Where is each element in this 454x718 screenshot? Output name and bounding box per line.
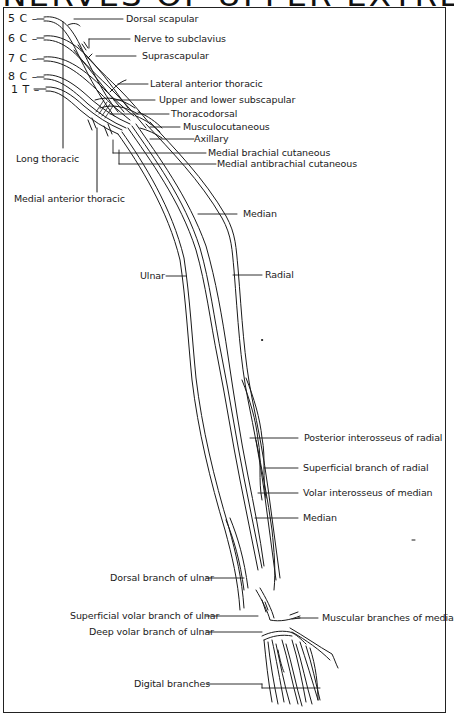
label-volar-interosseus-median: Volar interosseus of median (303, 488, 433, 498)
label-lateral-anterior-thoracic: Lateral anterior thoracic (150, 79, 263, 89)
root-label-c6: 6 C – (8, 33, 38, 44)
root-label-c5: 5 C – (8, 13, 38, 24)
arm-nerves (118, 122, 280, 610)
root-label-c7: 7 C – (8, 53, 38, 64)
label-musculocutaneous: Musculocutaneous (183, 122, 270, 132)
label-ulnar: Ulnar (140, 271, 165, 281)
label-superficial-branch-radial: Superficial branch of radial (303, 463, 428, 473)
label-suprascapular: Suprascapular (142, 51, 209, 61)
label-superficial-volar-branch-ulnar: Superficial volar branch of ulnar (70, 611, 219, 621)
root-label-c8: 8 C – (8, 71, 38, 82)
label-deep-volar-branch-ulnar: Deep volar branch of ulnar (89, 627, 214, 637)
root-label-t1: 1 T – (11, 84, 40, 95)
label-axillary: Axillary (194, 134, 229, 144)
label-median-lower: Median (303, 513, 337, 523)
label-medial-antibrachial-cutaneous: Medial antibrachial cutaneous (217, 159, 357, 169)
label-muscular-branches-median: Muscular branches of median (322, 613, 454, 623)
label-thoracodorsal: Thoracodorsal (171, 109, 237, 119)
label-medial-anterior-thoracic: Medial anterior thoracic (14, 194, 125, 204)
label-nerve-to-subclavius: Nerve to subclavius (134, 34, 226, 44)
label-medial-brachial-cutaneous: Medial brachial cutaneous (208, 148, 330, 158)
label-dorsal-scapular: Dorsal scapular (126, 14, 198, 24)
leader-lines (74, 19, 320, 688)
label-long-thoracic: Long thoracic (16, 154, 79, 164)
label-posterior-interosseus-radial: Posterior interosseus of radial (304, 433, 442, 443)
label-digital-branches: Digital branches (134, 679, 210, 689)
label-radial: Radial (265, 270, 294, 280)
label-median-upper: Median (243, 209, 277, 219)
label-upper-lower-subscapular: Upper and lower subscapular (159, 95, 295, 105)
label-dorsal-branch-ulnar: Dorsal branch of ulnar (110, 573, 214, 583)
